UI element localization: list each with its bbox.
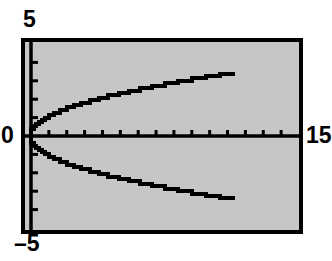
origin-label: 0 — [1, 124, 14, 147]
curve-series-0 — [31, 74, 235, 136]
axes-group — [25, 42, 299, 230]
plot-canvas — [25, 42, 299, 230]
y-axis-max-label: 5 — [23, 8, 36, 31]
y-axis-min-label: –5 — [14, 232, 40, 255]
curve-series-1 — [31, 136, 235, 198]
x-axis-max-label: 15 — [306, 124, 332, 147]
plot-area — [25, 42, 299, 230]
plot-frame — [21, 38, 303, 234]
